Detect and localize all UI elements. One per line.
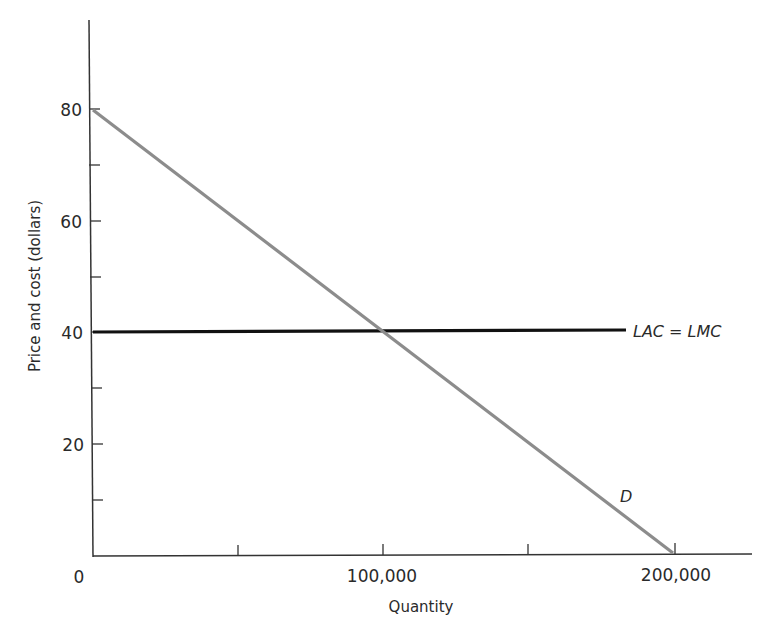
- origin-label: 0: [74, 567, 85, 587]
- y-tick-label-20: 20: [62, 435, 84, 455]
- y-axis: [89, 20, 93, 557]
- chart-canvas: 80 60 40 20 0 100,000 200,000 Quantity P…: [0, 0, 783, 640]
- lac-lmc-line: [93, 330, 626, 332]
- y-tick-label-60: 60: [60, 212, 82, 232]
- lac-lmc-label: LAC = LMC: [633, 322, 722, 341]
- x-tick-label-200000: 200,000: [641, 565, 711, 585]
- x-axis-title: Quantity: [389, 598, 454, 616]
- x-tick-label-100000: 100,000: [347, 566, 417, 586]
- y-tick-label-80: 80: [60, 100, 82, 120]
- demand-label: D: [620, 487, 632, 506]
- y-axis-title: Price and cost (dollars): [26, 200, 44, 372]
- y-tick-label-40: 40: [61, 323, 83, 343]
- x-axis: [93, 554, 752, 556]
